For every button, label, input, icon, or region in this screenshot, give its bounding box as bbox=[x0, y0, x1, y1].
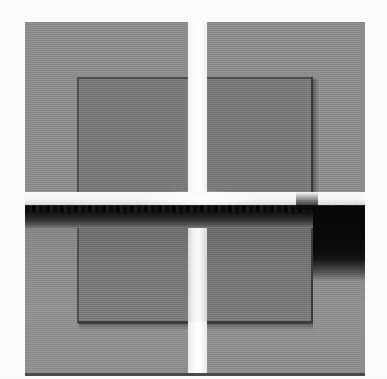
sample-inner-block-bottom-right bbox=[207, 228, 313, 322]
inner-square-edge-bottom-right bbox=[207, 321, 313, 324]
micrograph-canvas: Square sample with a concentric inner sq… bbox=[0, 0, 387, 379]
inner-square-edge-right-lower bbox=[311, 228, 313, 323]
inner-square-edge-bottom-left bbox=[78, 321, 188, 324]
inner-square-edge-top-right bbox=[207, 77, 313, 79]
vertical-bright-channel-middle bbox=[188, 192, 207, 228]
inner-square-edge-left-lower bbox=[77, 228, 79, 323]
sample-inner-block-bottom-left bbox=[78, 228, 188, 322]
vertical-bright-channel-lower bbox=[188, 228, 207, 322]
vertical-bright-channel-bottom bbox=[188, 322, 207, 374]
sample-inner-block-top-right bbox=[207, 78, 313, 192]
inner-square-edge-top-left bbox=[78, 77, 188, 79]
vertical-bright-channel-upper bbox=[188, 22, 207, 192]
inner-square-edge-right-upper bbox=[311, 77, 313, 192]
horizontal-bright-band bbox=[25, 192, 365, 208]
sample-inner-block-top-left bbox=[78, 78, 188, 192]
inner-square-edge-left-upper bbox=[77, 77, 79, 192]
